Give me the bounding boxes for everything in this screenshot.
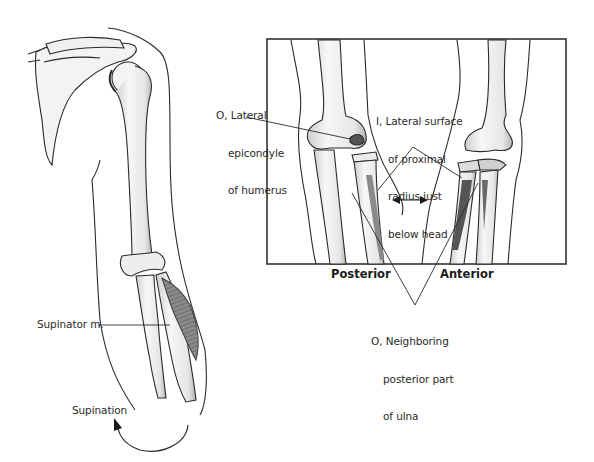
label-insertion-lateral-radius: I, Lateral surface of proximal radius ju…	[376, 90, 463, 265]
view-title-anterior: Anterior	[440, 267, 494, 281]
label-origin-ulna: O, Neighboring posterior part of ulna	[371, 310, 454, 448]
full-arm-illustration	[28, 28, 206, 451]
view-title-posterior: Posterior	[331, 267, 391, 281]
label-supinator-muscle: Supinator m.	[37, 318, 104, 331]
illustration	[0, 0, 594, 462]
label-supination: Supination	[72, 404, 127, 417]
label-origin-lateral-epicondyle: O, Lateral epicondyle of humerus	[216, 84, 287, 222]
anatomy-figure: O, Lateral epicondyle of humerus I, Late…	[0, 0, 594, 462]
